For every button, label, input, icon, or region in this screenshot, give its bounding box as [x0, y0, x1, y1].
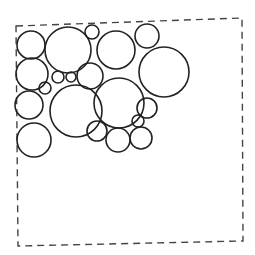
circle-h [52, 71, 64, 83]
diagram-canvas [0, 0, 255, 255]
circle-n [15, 91, 43, 119]
circle-packing-diagram [0, 0, 255, 255]
circle-l [50, 85, 102, 137]
circle-s [106, 128, 130, 152]
circle-p [132, 115, 144, 127]
circle-c [85, 25, 99, 39]
circle-d [97, 31, 135, 69]
circle-g [16, 58, 48, 90]
circle-r [87, 121, 107, 141]
circle-t [130, 127, 152, 149]
circle-e [135, 24, 159, 48]
dashed-boundary-square [16, 18, 243, 246]
circle-a [17, 31, 45, 59]
circle-cluster [15, 24, 189, 157]
circle-f [139, 47, 189, 97]
circle-q [17, 123, 51, 157]
circle-b [45, 27, 91, 73]
